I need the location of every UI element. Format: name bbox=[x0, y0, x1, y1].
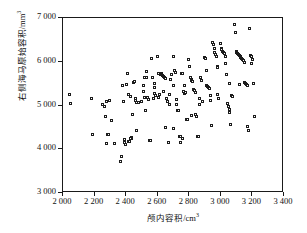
scatter-point bbox=[151, 76, 154, 79]
scatter-points-layer bbox=[63, 18, 282, 191]
scatter-point bbox=[133, 80, 136, 83]
scatter-point bbox=[205, 69, 208, 72]
scatter-point bbox=[135, 101, 138, 104]
scatter-point bbox=[120, 155, 123, 158]
x-axis-title: 颅内容积/cm3 bbox=[62, 211, 284, 223]
scatter-point bbox=[177, 109, 180, 112]
scatter-point bbox=[238, 83, 241, 86]
scatter-point bbox=[175, 98, 178, 101]
y-axis-tick bbox=[58, 17, 62, 18]
scatter-point bbox=[129, 95, 132, 98]
scatter-point bbox=[229, 123, 232, 126]
scatter-point bbox=[119, 160, 122, 163]
scatter-point bbox=[174, 71, 177, 74]
scatter-point bbox=[250, 62, 253, 65]
y-axis-tick bbox=[58, 61, 62, 62]
scatter-point bbox=[186, 118, 189, 121]
scatter-point bbox=[204, 57, 207, 60]
scatter-point bbox=[183, 84, 186, 87]
scatter-point bbox=[181, 137, 184, 140]
scatter-point bbox=[228, 82, 231, 85]
scatter-point bbox=[131, 113, 134, 116]
scatter-point bbox=[208, 87, 211, 90]
scatter-point bbox=[191, 80, 194, 83]
scatter-point bbox=[198, 103, 201, 106]
scatter-point bbox=[219, 42, 222, 45]
scatter-point bbox=[251, 58, 254, 61]
y-axis-tick bbox=[58, 148, 62, 149]
scatter-point bbox=[104, 115, 107, 118]
scatter-point bbox=[152, 97, 155, 100]
scatter-point bbox=[225, 73, 228, 76]
scatter-point bbox=[105, 100, 108, 103]
scatter-point bbox=[150, 57, 153, 60]
scatter-point bbox=[103, 105, 106, 108]
y-axis-tick-label: 4 000 bbox=[0, 142, 56, 152]
y-axis-tick-label: 3 000 bbox=[0, 186, 56, 196]
scatter-point bbox=[233, 23, 236, 26]
scatter-point bbox=[216, 93, 219, 96]
scatter-point bbox=[181, 72, 184, 75]
scatter-point bbox=[179, 141, 182, 144]
scatter-point bbox=[217, 97, 220, 100]
scatter-point bbox=[124, 143, 127, 146]
scatter-point bbox=[143, 76, 146, 79]
scatter-point bbox=[170, 73, 173, 76]
scatter-point bbox=[187, 58, 190, 61]
scatter-point bbox=[140, 100, 143, 103]
scatter-point bbox=[198, 97, 201, 100]
scatter-point bbox=[216, 66, 219, 69]
scatter-point bbox=[153, 82, 156, 85]
scatter-point bbox=[128, 140, 131, 143]
scatter-point bbox=[172, 127, 175, 130]
scatter-point bbox=[90, 97, 93, 100]
scatter-point bbox=[169, 78, 172, 81]
scatter-point bbox=[125, 83, 128, 86]
scatter-point bbox=[145, 70, 148, 73]
scatter-point bbox=[231, 95, 234, 98]
scatter-point bbox=[224, 55, 227, 58]
scatter-point bbox=[168, 103, 171, 106]
scatter-point bbox=[153, 86, 156, 89]
scatter-point bbox=[248, 27, 251, 30]
scatter-point bbox=[144, 109, 147, 112]
y-axis-tick bbox=[58, 105, 62, 106]
scatter-point bbox=[188, 65, 191, 68]
scatter-point bbox=[224, 62, 227, 65]
scatter-point bbox=[123, 138, 126, 141]
scatter-chart-figure: 右侧海马原始容积/mm3 3 0004 0005 0006 0007 0002 … bbox=[0, 0, 307, 233]
scatter-point bbox=[68, 93, 71, 96]
scatter-point bbox=[252, 82, 255, 85]
scatter-point bbox=[126, 72, 129, 75]
x-axis-title-text: 颅内容积/cm3 bbox=[147, 213, 199, 223]
scatter-point bbox=[213, 47, 216, 50]
y-axis-tick-label: 6 000 bbox=[0, 55, 56, 65]
x-axis-tick-label: 3 400 bbox=[261, 196, 305, 206]
scatter-point bbox=[110, 119, 113, 122]
scatter-point bbox=[190, 114, 193, 117]
scatter-point bbox=[157, 96, 160, 99]
scatter-point bbox=[209, 94, 212, 97]
scatter-point bbox=[167, 141, 170, 144]
scatter-point bbox=[247, 129, 250, 132]
scatter-point bbox=[121, 84, 124, 87]
scatter-point bbox=[212, 43, 215, 46]
y-axis-tick-label: 5 000 bbox=[0, 99, 56, 109]
scatter-point bbox=[149, 139, 152, 142]
scatter-point bbox=[129, 137, 132, 140]
scatter-point bbox=[209, 99, 212, 102]
scatter-point bbox=[215, 55, 218, 58]
scatter-point bbox=[168, 93, 171, 96]
scatter-point bbox=[201, 100, 204, 103]
scatter-point bbox=[228, 111, 231, 114]
scatter-point bbox=[107, 133, 110, 136]
scatter-point bbox=[147, 98, 150, 101]
scatter-point bbox=[156, 55, 159, 58]
scatter-point bbox=[172, 84, 175, 87]
scatter-point bbox=[113, 142, 116, 145]
scatter-point bbox=[105, 142, 108, 145]
plot-frame bbox=[62, 17, 283, 192]
scatter-point bbox=[195, 115, 198, 118]
scatter-point bbox=[200, 79, 203, 82]
scatter-point bbox=[142, 90, 145, 93]
